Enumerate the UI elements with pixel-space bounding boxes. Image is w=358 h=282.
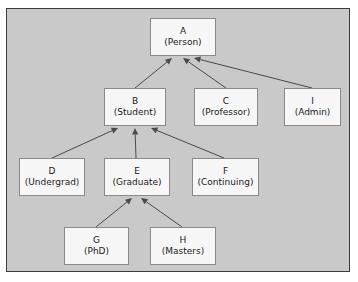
node-i[interactable]: I(Admin) (284, 88, 341, 126)
edge-g-to-e (96, 198, 132, 227)
node-role: (Student) (114, 107, 156, 118)
arrowhead-icon (132, 128, 138, 135)
node-key: D (49, 166, 56, 177)
node-role: (PhD) (84, 246, 109, 257)
node-key: H (180, 235, 187, 246)
arrowhead-icon (165, 58, 172, 65)
node-key: F (223, 166, 228, 177)
edge-i-to-a (194, 57, 312, 88)
arrowhead-icon (183, 58, 190, 64)
diagram-canvas: A(Person)B(Student)C(Professor)I(Admin)D… (0, 0, 358, 282)
node-e[interactable]: E(Graduate) (104, 158, 170, 196)
edge-e-to-b (132, 128, 138, 158)
node-key: I (311, 96, 314, 107)
arrowhead-icon (125, 198, 132, 204)
arrowhead-icon (194, 57, 201, 63)
edge-line (200, 60, 312, 88)
node-key: G (93, 235, 100, 246)
edge-line (96, 202, 127, 227)
node-role: (Masters) (162, 246, 204, 257)
node-key: C (223, 96, 229, 107)
node-g[interactable]: G(PhD) (64, 227, 129, 265)
node-b[interactable]: B(Student) (104, 88, 166, 126)
node-f[interactable]: F(Continuing) (192, 158, 259, 196)
edge-c-to-a (183, 58, 226, 88)
node-key: A (180, 26, 186, 37)
node-role: (Continuing) (198, 177, 254, 188)
arrowhead-icon (141, 198, 148, 204)
edge-h-to-e (141, 198, 182, 227)
node-role: (Graduate) (112, 177, 161, 188)
node-role: (Person) (164, 37, 201, 48)
edge-line (146, 202, 182, 227)
edge-f-to-b (151, 128, 224, 158)
node-h[interactable]: H(Masters) (150, 227, 216, 265)
edge-line (52, 131, 112, 158)
node-key: B (132, 96, 138, 107)
node-d[interactable]: D(Undergrad) (19, 158, 85, 196)
edge-b-to-a (135, 58, 172, 88)
node-role: (Undergrad) (25, 177, 80, 188)
node-role: (Professor) (202, 107, 251, 118)
node-key: E (134, 166, 140, 177)
node-role: (Admin) (295, 107, 331, 118)
edge-d-to-b (52, 128, 118, 158)
node-c[interactable]: C(Professor) (194, 88, 258, 126)
edge-line (135, 62, 167, 88)
node-a[interactable]: A(Person) (150, 18, 216, 56)
edge-line (157, 130, 224, 158)
edge-line (135, 134, 136, 158)
edge-line (188, 62, 226, 88)
